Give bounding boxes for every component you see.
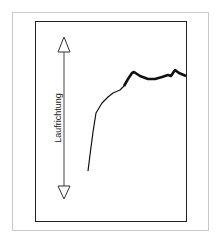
profile-curve-thick <box>124 70 186 86</box>
axis-label: Laufrichtung <box>53 93 63 143</box>
profile-curve <box>88 70 186 171</box>
diagram-graphics <box>0 0 223 241</box>
